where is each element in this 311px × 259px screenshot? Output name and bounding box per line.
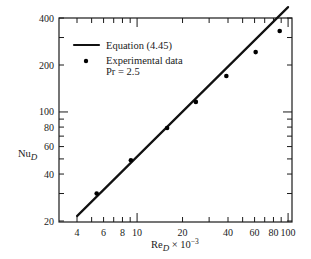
equation-curve xyxy=(77,7,288,216)
y-tick-label: 60 xyxy=(44,141,54,152)
data-point xyxy=(277,29,282,34)
y-tick-label: 400 xyxy=(39,13,54,24)
x-tick-label: 8 xyxy=(120,227,125,238)
nusselt-vs-reynolds-chart: 4681020406080100 20406080100200400 Equat… xyxy=(0,0,311,259)
x-tick-label: 6 xyxy=(101,227,106,238)
legend-dot-label: Experimental data xyxy=(106,55,183,66)
legend-dot-swatch xyxy=(84,59,88,63)
x-tick-label: 40 xyxy=(223,227,233,238)
y-tick-label: 80 xyxy=(44,122,54,133)
data-point xyxy=(253,50,258,55)
legend-line-label: Equation (4.45) xyxy=(106,40,172,52)
x-tick-label: 80 xyxy=(268,227,278,238)
y-tick-label: 200 xyxy=(39,60,54,71)
data-point xyxy=(165,126,170,131)
data-point xyxy=(94,191,99,196)
equation-line xyxy=(77,7,288,216)
y-axis-title: NuD xyxy=(18,148,38,162)
x-tick-label: 20 xyxy=(178,227,188,238)
x-tick-label: 60 xyxy=(250,227,260,238)
x-axis-title: ReD × 10−3 xyxy=(151,237,199,253)
y-tick-label: 20 xyxy=(44,216,54,227)
y-tick-label: 40 xyxy=(44,169,54,180)
x-tick-label: 10 xyxy=(132,227,142,238)
x-axis-tick-labels: 4681020406080100 xyxy=(75,227,296,238)
legend-dot-sublabel: Pr = 2.5 xyxy=(106,66,140,77)
x-tick-label: 100 xyxy=(281,227,296,238)
y-tick-label: 100 xyxy=(39,106,54,117)
data-point xyxy=(129,158,134,163)
data-point xyxy=(194,100,199,105)
x-tick-label: 4 xyxy=(75,227,80,238)
y-axis-tick-labels: 20406080100200400 xyxy=(39,13,54,227)
data-point xyxy=(224,74,229,79)
legend: Equation (4.45) Experimental data Pr = 2… xyxy=(74,40,183,77)
